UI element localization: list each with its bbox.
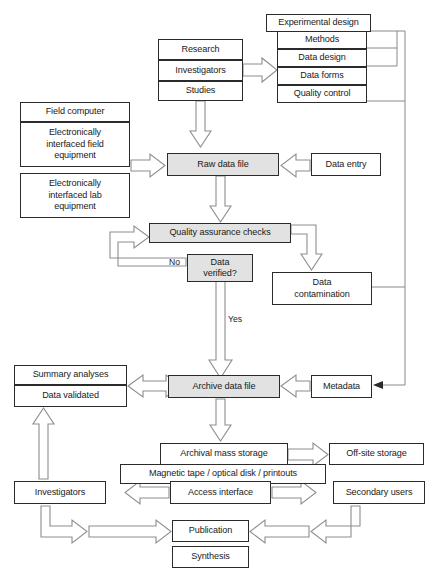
node-archive-data-file[interactable]: Archive data file: [168, 375, 280, 398]
node-access-interface[interactable]: Access interface: [170, 481, 271, 504]
node-quality-control[interactable]: Quality control: [277, 85, 367, 103]
node-studies[interactable]: Studies: [158, 81, 243, 101]
edge-label-no: No: [169, 257, 180, 267]
node-data-contamination[interactable]: Data contamination: [272, 272, 372, 305]
line-experimental-design-to-trunk: [370, 31, 405, 385]
node-experimental-design[interactable]: Experimental design: [266, 14, 371, 32]
node-secondary-users[interactable]: Secondary users: [333, 481, 425, 504]
node-offsite-storage[interactable]: Off-site storage: [329, 443, 424, 465]
node-data-design[interactable]: Data design: [277, 49, 367, 67]
arrow-left-to-publication: [89, 520, 171, 543]
arrow-right-to-publication: [250, 520, 309, 543]
arrow-raw-data-to-qa-checks: [210, 176, 231, 222]
node-publication[interactable]: Publication: [172, 520, 249, 542]
arrow-yes-to-archive-data: [209, 281, 232, 378]
node-archival-mass-storage[interactable]: Archival mass storage: [160, 443, 288, 465]
node-data-validated[interactable]: Data validated: [14, 385, 127, 407]
node-methods[interactable]: Methods: [277, 31, 367, 49]
arrow-research-to-experimental-design: [243, 58, 277, 82]
node-quality-assurance-checks[interactable]: Quality assurance checks: [149, 223, 291, 243]
arrow-mass-storage-to-offsite: [288, 443, 328, 466]
node-data-entry[interactable]: Data entry: [311, 153, 381, 176]
node-raw-data-file[interactable]: Raw data file: [167, 153, 279, 176]
arrow-access-interface-to-investigators: [125, 481, 169, 504]
arrow-investigators-to-data-validated: [33, 408, 54, 479]
diagram-canvas: Research Investigators Studies Experimen…: [0, 0, 437, 584]
node-investigators-top[interactable]: Investigators: [158, 60, 243, 81]
arrow-qa-checks-to-data-contamination: [291, 225, 322, 270]
arrow-data-entry-to-raw-data: [281, 154, 310, 177]
arrowhead-into-metadata: [373, 381, 383, 389]
arrow-access-interface-to-secondary-users: [272, 481, 316, 504]
node-field-equipment[interactable]: Electronically interfaced field equipmen…: [20, 122, 130, 167]
node-summary-analyses[interactable]: Summary analyses: [14, 365, 127, 385]
node-field-computer[interactable]: Field computer: [20, 102, 130, 122]
arrow-metadata-to-archive-data: [281, 375, 310, 397]
arrow-secondary-users-to-publication: [311, 506, 360, 543]
arrow-investigators-to-publication: [41, 506, 87, 543]
node-investigators-bottom[interactable]: Investigators: [14, 481, 106, 504]
node-lab-equipment[interactable]: Electronically interfaced lab equipment: [20, 173, 130, 218]
node-synthesis[interactable]: Synthesis: [172, 546, 249, 568]
node-research[interactable]: Research: [158, 39, 243, 60]
arrow-field-equipment-to-raw-data: [131, 154, 165, 177]
node-data-verified[interactable]: Data verified?: [187, 254, 253, 282]
node-data-forms[interactable]: Data forms: [277, 67, 367, 85]
arrow-research-to-raw-data: [190, 101, 211, 147]
edge-label-yes: Yes: [228, 314, 242, 324]
arrow-archive-to-mass-storage: [210, 399, 231, 441]
node-metadata[interactable]: Metadata: [311, 375, 372, 398]
